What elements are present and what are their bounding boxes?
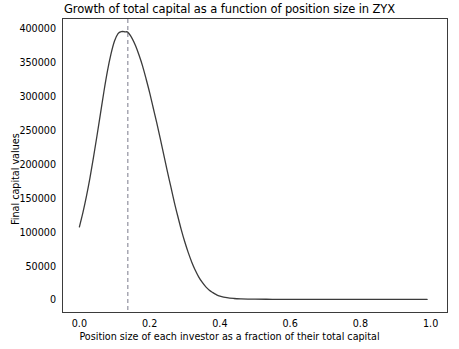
x-tick-label: 0.4: [212, 318, 227, 329]
x-tick-label: 1.0: [423, 318, 438, 329]
plot-frame: [63, 19, 448, 313]
plot-area: [62, 18, 448, 313]
y-axis-label: Final capital values: [10, 133, 21, 225]
chart-figure: Growth of total capital as a function of…: [0, 0, 459, 349]
plot-canvas: [62, 18, 448, 313]
x-axis-label: Position size of each investor as a frac…: [0, 331, 459, 342]
x-tick-label: 0.6: [282, 318, 297, 329]
x-tick-label: 0.0: [72, 318, 87, 329]
x-tick-label: 0.8: [353, 318, 368, 329]
x-tick-label: 0.2: [142, 318, 157, 329]
